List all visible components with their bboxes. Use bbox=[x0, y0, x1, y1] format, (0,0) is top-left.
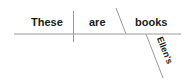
verb-word: are bbox=[89, 17, 106, 28]
complement-word: books bbox=[135, 17, 167, 28]
sentence-diagram: These are books Ellen's bbox=[0, 0, 188, 81]
subject-word: These bbox=[31, 17, 63, 28]
complement-slash bbox=[116, 8, 126, 34]
